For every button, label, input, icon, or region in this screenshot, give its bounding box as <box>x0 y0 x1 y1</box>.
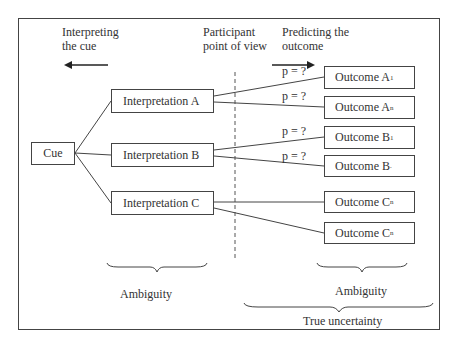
cue-box: Cue <box>31 142 75 165</box>
left-ambiguity-label: Ambiguity <box>120 287 172 301</box>
outcome-box: Outcome Cn <box>324 191 415 213</box>
header-interpreting: Interpreting the cue <box>62 25 119 53</box>
outcome-box: Outcome B. <box>324 155 415 177</box>
outcome-box: Outcome A1 <box>324 66 415 89</box>
probability-label: p = ? <box>282 64 306 78</box>
outcome-box: Outcome B1 <box>324 126 415 149</box>
probability-label: p = ? <box>282 149 306 163</box>
outcome-box: Outcome Cn <box>324 222 415 244</box>
true-uncertainty-label: True uncertainty <box>303 314 382 328</box>
interpretation-b-box: Interpretation B <box>111 143 214 167</box>
right-ambiguity-label: Ambiguity <box>335 284 387 298</box>
interpretation-c-box: Interpretation C <box>111 191 214 215</box>
probability-label: p = ? <box>282 89 306 103</box>
header-predicting: Predicting the outcome <box>282 25 349 53</box>
probability-label: p = ? <box>282 124 306 138</box>
header-participant: Participant point of view <box>203 25 267 53</box>
interpretation-a-box: Interpretation A <box>111 89 214 113</box>
outcome-box: Outcome An <box>324 96 415 119</box>
